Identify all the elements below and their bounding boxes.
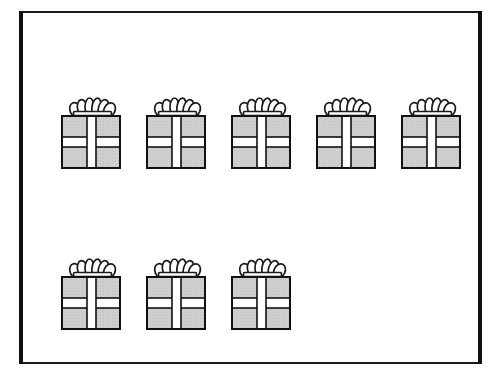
gift-box (231, 258, 291, 330)
figure-canvas (0, 0, 499, 373)
gift-box (61, 97, 121, 169)
gift-box (61, 258, 121, 330)
frame-top-edge (19, 11, 482, 13)
gift-box (146, 97, 206, 169)
frame-left-edge (19, 11, 23, 364)
frame-right-edge (478, 11, 482, 364)
gift-box (146, 258, 206, 330)
gift-box (316, 97, 376, 169)
gift-box (231, 97, 291, 169)
gift-box (401, 97, 461, 169)
frame-bottom-edge (19, 362, 482, 364)
